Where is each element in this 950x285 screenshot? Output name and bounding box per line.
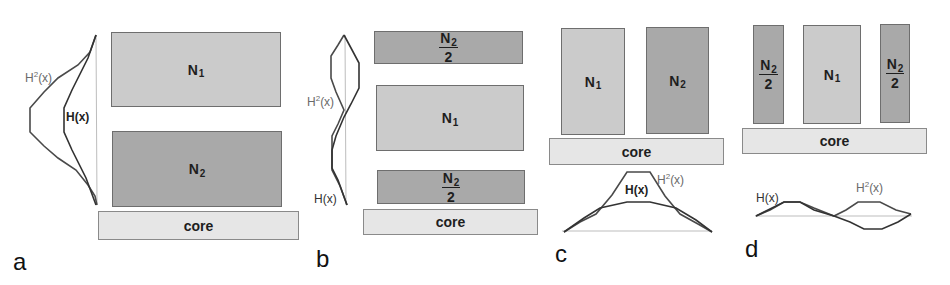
block-core-d: core [742, 128, 927, 154]
h-curve-c [564, 202, 712, 232]
block-n2-half-top-b: N2 2 [374, 31, 523, 64]
block-label: N [188, 62, 198, 78]
panel-letter-b: b [316, 245, 329, 273]
block-core-a: core [98, 211, 299, 240]
h-label-a: H(x) [66, 110, 89, 124]
h-label-d: H(x) [756, 191, 779, 205]
block-label: core [184, 218, 214, 234]
block-subscript: 1 [199, 68, 205, 79]
fraction-n2-over-2: N2 2 [759, 58, 778, 91]
axis-line-a [96, 35, 97, 205]
h-label-b: H(x) [314, 192, 337, 206]
block-core-b: core [363, 209, 538, 235]
block-n1-b: N1 [376, 85, 524, 151]
block-n2-half-right-d: N2 2 [880, 24, 910, 123]
block-n2-half-bottom-b: N2 2 [377, 170, 525, 204]
h2-curve-b [331, 35, 347, 205]
h2-label-d: H2(x) [856, 180, 883, 195]
h2-label-c: H2(x) [657, 172, 684, 187]
fraction-n2-over-2: N2 2 [439, 31, 458, 64]
h2-label-a: H2(x) [25, 70, 52, 85]
block-n1-a: N1 [111, 32, 281, 107]
panel-letter-d: d [745, 235, 758, 263]
block-n1-c: N1 [561, 28, 625, 135]
panel-letter-a: a [13, 248, 26, 276]
block-n2-c: N2 [646, 27, 709, 134]
block-core-c: core [549, 138, 724, 165]
panel-letter-c: c [555, 240, 567, 268]
fraction-n2-over-2: N2 2 [886, 57, 905, 90]
h-label-c: H(x) [625, 183, 648, 197]
h2-label-b: H2(x) [307, 94, 334, 109]
block-n2-half-left-d: N2 2 [753, 25, 784, 124]
block-n1-d: N1 [803, 25, 861, 124]
fraction-n2-over-2: N2 2 [442, 171, 461, 204]
block-subscript: 2 [200, 168, 206, 179]
block-label: N [189, 161, 199, 177]
block-n2-a: N2 [112, 131, 282, 207]
axis-line-b [345, 35, 346, 205]
